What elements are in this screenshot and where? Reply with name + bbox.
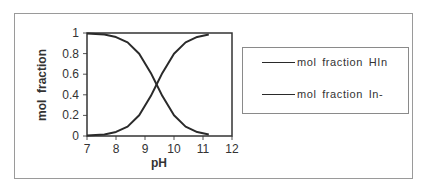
- x-tick-label: 7: [84, 142, 91, 156]
- series-hin-line: [87, 33, 209, 134]
- x-tick-label: 9: [142, 142, 149, 156]
- data-series: [87, 33, 209, 135]
- legend-item-hin: mol fraction HIn: [262, 56, 388, 68]
- y-axis-ticks: 00.20.40.60.81: [62, 26, 87, 143]
- y-tick-label: 0.6: [62, 67, 79, 81]
- y-tick-label: 0.2: [62, 108, 79, 122]
- legend-label: mol fraction In-: [297, 88, 383, 100]
- y-tick-label: 0: [72, 129, 79, 143]
- y-tick-label: 0.8: [62, 47, 79, 61]
- x-tick-label: 12: [225, 142, 239, 156]
- chart-legend: mol fraction HIn mol fraction In-: [242, 47, 409, 114]
- legend-item-in: mol fraction In-: [262, 88, 383, 100]
- x-tick-label: 8: [113, 142, 120, 156]
- legend-label: mol fraction HIn: [297, 56, 388, 68]
- legend-line-icon: [262, 94, 295, 95]
- x-axis-label: pH: [151, 156, 167, 170]
- x-tick-label: 11: [197, 142, 210, 156]
- y-axis-label: mol fraction: [35, 49, 49, 121]
- y-tick-label: 0.4: [62, 88, 79, 102]
- series-in-line: [87, 35, 209, 136]
- x-axis-ticks: 789101112: [84, 136, 239, 156]
- legend-line-icon: [262, 62, 295, 63]
- plot-area-border: [87, 33, 232, 136]
- y-tick-label: 1: [72, 26, 79, 40]
- x-tick-label: 10: [167, 142, 181, 156]
